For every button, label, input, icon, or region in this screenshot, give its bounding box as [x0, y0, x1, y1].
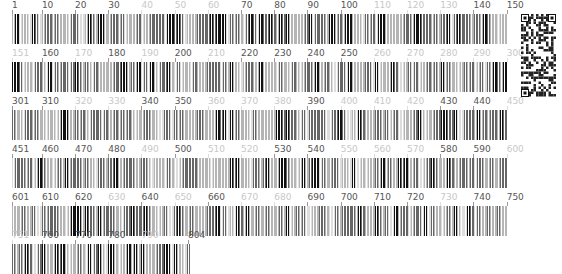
position-label: 480 — [108, 144, 125, 154]
sequence-bars — [12, 158, 507, 188]
position-label: 280 — [440, 48, 457, 58]
position-label: 210 — [208, 48, 225, 58]
position-label: 760 — [42, 230, 59, 240]
residue-bar — [503, 158, 506, 188]
position-label: 30 — [108, 0, 119, 10]
position-label: 420 — [407, 96, 424, 106]
position-label: 510 — [208, 144, 225, 154]
position-label: 540 — [307, 144, 324, 154]
position-label: 700 — [341, 192, 358, 202]
position-label: 620 — [75, 192, 92, 202]
position-label: 120 — [407, 0, 424, 10]
sequence-row: 3013103203303403503603703803904004104204… — [12, 96, 507, 140]
position-label: 240 — [307, 48, 324, 58]
position-label: 520 — [241, 144, 258, 154]
position-label: 40 — [141, 0, 152, 10]
position-label: 670 — [241, 192, 258, 202]
position-label: 90 — [307, 0, 318, 10]
position-label: 20 — [75, 0, 86, 10]
position-label: 640 — [141, 192, 158, 202]
position-label: 804 — [188, 230, 205, 240]
position-label: 650 — [175, 192, 192, 202]
position-label: 320 — [75, 96, 92, 106]
sequence-bars — [12, 14, 507, 44]
position-label: 230 — [274, 48, 291, 58]
position-label: 430 — [440, 96, 457, 106]
position-label: 550 — [341, 144, 358, 154]
position-label: 10 — [42, 0, 53, 10]
residue-bar — [503, 110, 506, 140]
position-label: 440 — [473, 96, 490, 106]
tick-mark — [507, 58, 508, 62]
residue-bar — [503, 62, 506, 92]
tick-mark — [507, 202, 508, 206]
position-label: 400 — [341, 96, 358, 106]
position-label: 450 — [507, 96, 524, 106]
tick-mark — [507, 154, 508, 158]
position-label: 100 — [341, 0, 358, 10]
position-label: 601 — [12, 192, 29, 202]
position-label: 150 — [507, 0, 524, 10]
position-label: 500 — [175, 144, 192, 154]
position-label: 290 — [473, 48, 490, 58]
position-label: 660 — [208, 192, 225, 202]
position-label: 310 — [42, 96, 59, 106]
position-label: 470 — [75, 144, 92, 154]
position-label: 750 — [507, 192, 524, 202]
position-label: 70 — [241, 0, 252, 10]
position-label: 380 — [274, 96, 291, 106]
position-label: 680 — [274, 192, 291, 202]
position-label: 751 — [12, 230, 29, 240]
position-label: 730 — [440, 192, 457, 202]
position-labels: 6016106206306406506606706806907007107207… — [12, 192, 507, 206]
position-label: 790 — [141, 230, 158, 240]
position-label: 270 — [407, 48, 424, 58]
tick-mark — [507, 10, 508, 14]
position-label: 390 — [307, 96, 324, 106]
position-label: 560 — [374, 144, 391, 154]
position-label: 140 — [473, 0, 490, 10]
position-label: 200 — [175, 48, 192, 58]
residue-bar — [503, 14, 506, 44]
position-label: 630 — [108, 192, 125, 202]
position-label: 151 — [12, 48, 29, 58]
position-label: 600 — [507, 144, 524, 154]
position-label: 451 — [12, 144, 29, 154]
position-label: 370 — [241, 96, 258, 106]
position-label: 80 — [274, 0, 285, 10]
sequence-bars — [12, 110, 507, 140]
position-label: 190 — [141, 48, 158, 58]
position-label: 340 — [141, 96, 158, 106]
position-labels: 3013103203303403503603703803904004104204… — [12, 96, 507, 110]
position-label: 260 — [374, 48, 391, 58]
tick-mark — [507, 106, 508, 110]
sequence-row: 751760770780790804 — [12, 230, 190, 274]
position-labels: 1102030405060708090100110120130140150 — [12, 0, 507, 14]
position-label: 130 — [440, 0, 457, 10]
position-label: 460 — [42, 144, 59, 154]
position-label: 570 — [407, 144, 424, 154]
position-label: 740 — [473, 192, 490, 202]
position-label: 780 — [108, 230, 125, 240]
position-label: 250 — [341, 48, 358, 58]
sequence-row: 1102030405060708090100110120130140150 — [12, 0, 507, 44]
position-label: 410 — [374, 96, 391, 106]
position-label: 330 — [108, 96, 125, 106]
position-label: 160 — [42, 48, 59, 58]
position-label: 590 — [473, 144, 490, 154]
sequence-bars — [12, 244, 190, 274]
position-labels: 751760770780790804 — [12, 230, 190, 244]
sequence-bars — [12, 62, 507, 92]
position-label: 180 — [108, 48, 125, 58]
position-label: 770 — [75, 230, 92, 240]
position-label: 170 — [75, 48, 92, 58]
position-label: 720 — [407, 192, 424, 202]
position-label: 710 — [374, 192, 391, 202]
position-label: 360 — [208, 96, 225, 106]
position-label: 1 — [12, 0, 18, 10]
position-label: 50 — [175, 0, 186, 10]
position-labels: 1511601701801902002102202302402502602702… — [12, 48, 507, 62]
position-label: 490 — [141, 144, 158, 154]
position-label: 610 — [42, 192, 59, 202]
residue-bar — [187, 244, 190, 274]
